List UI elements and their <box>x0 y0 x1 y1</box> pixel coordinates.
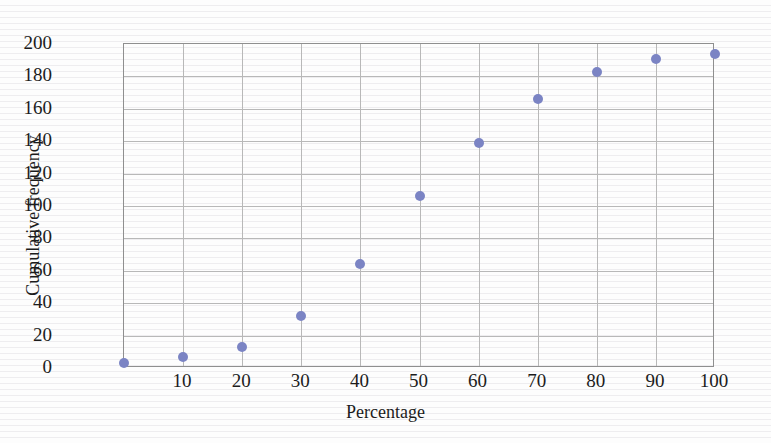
gridline-vertical <box>479 44 480 366</box>
gridline-horizontal <box>124 76 713 77</box>
x-tick-label: 10 <box>152 371 212 390</box>
gridline-vertical <box>360 44 361 366</box>
x-axis-title: Percentage <box>0 402 771 423</box>
gridline-vertical <box>183 44 184 366</box>
plot-area <box>123 43 714 367</box>
x-tick-label: 50 <box>389 371 449 390</box>
gridline-vertical <box>656 44 657 366</box>
gridline-vertical <box>420 44 421 366</box>
data-point <box>237 342 247 352</box>
gridline-horizontal <box>124 109 713 110</box>
gridline-horizontal <box>124 206 713 207</box>
y-tick-label: 200 <box>0 33 52 52</box>
gridline-vertical <box>538 44 539 366</box>
gridline-horizontal <box>124 336 713 337</box>
gridline-horizontal <box>124 303 713 304</box>
x-tick-label: 70 <box>507 371 567 390</box>
gridline-horizontal <box>124 271 713 272</box>
x-tick-label: 30 <box>270 371 330 390</box>
data-point <box>415 191 425 201</box>
x-tick-label: 80 <box>566 371 626 390</box>
data-point <box>533 94 543 104</box>
data-point <box>355 259 365 269</box>
x-tick-label: 60 <box>448 371 508 390</box>
data-point <box>296 311 306 321</box>
gridline-horizontal <box>124 141 713 142</box>
data-point <box>710 49 720 59</box>
data-point <box>119 358 129 368</box>
data-point <box>651 54 661 64</box>
y-tick-label: 180 <box>0 65 52 84</box>
cumulative-frequency-chart: 020406080100120140160180200 102030405060… <box>0 0 771 443</box>
data-point <box>178 352 188 362</box>
x-tick-label: 100 <box>684 371 744 390</box>
gridline-horizontal <box>124 174 713 175</box>
data-point <box>474 138 484 148</box>
data-point <box>592 67 602 77</box>
gridline-vertical <box>597 44 598 366</box>
gridline-horizontal <box>124 238 713 239</box>
gridline-vertical <box>242 44 243 366</box>
x-tick-label: 20 <box>211 371 271 390</box>
y-axis-title: Cumulative frequency <box>23 96 44 336</box>
y-tick-label: 0 <box>0 357 52 376</box>
x-tick-label: 90 <box>625 371 685 390</box>
x-tick-label: 40 <box>329 371 389 390</box>
